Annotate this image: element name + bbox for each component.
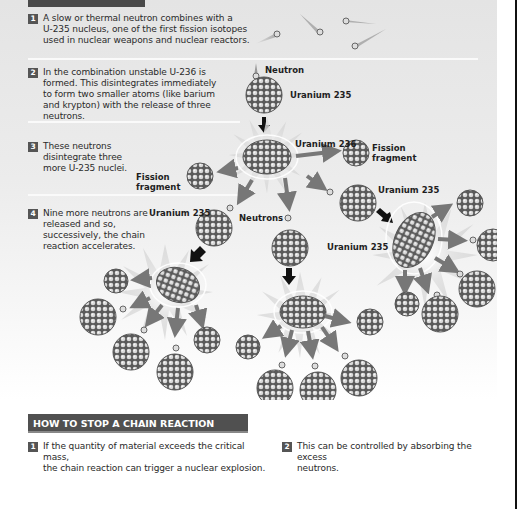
page-edge-line — [515, 0, 517, 509]
step-text: Nine more neutrons are released and so, … — [43, 208, 163, 252]
label-neutrons: Neutrons — [239, 213, 283, 223]
label-uranium-235-top: Uranium 235 — [290, 90, 351, 100]
step-number-badge: 4 — [28, 209, 38, 219]
step-text: These neutrons disintegrate three more U… — [43, 141, 153, 174]
label-uranium-236: Uranium 236 — [295, 139, 356, 149]
step-number-badge: 3 — [28, 142, 38, 152]
step-text: If the quantity of material exceeds the … — [43, 441, 273, 474]
label-fission-fragment-right: Fission fragment — [372, 143, 416, 163]
label-neutron: Neutron — [265, 65, 304, 75]
step-text: A slow or thermal neutron combines with … — [43, 13, 273, 46]
step-number-badge: 2 — [28, 68, 38, 78]
label-uranium-235-right: Uranium 235 — [378, 185, 439, 195]
chain-reaction-diagram — [0, 0, 497, 400]
stop-section-title: HOW TO STOP A CHAIN REACTION — [28, 414, 248, 433]
neutrons-in-flight — [255, 14, 386, 49]
step-number-badge: 1 — [28, 14, 38, 24]
label-fission-fragment-left: Fission fragment — [136, 172, 180, 192]
step-number-badge: 2 — [282, 442, 292, 452]
label-uranium-235-middle: Uranium 235 — [327, 242, 388, 252]
step-text: This can be controlled by absorbing the … — [297, 441, 497, 474]
step-text: In the combination unstable U-236 is for… — [43, 67, 243, 122]
step-number-badge: 1 — [28, 442, 38, 452]
